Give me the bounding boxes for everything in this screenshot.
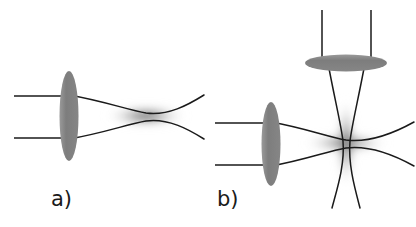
panel-a-vertical-lens [60, 71, 79, 161]
panel-label-b: b) [217, 189, 239, 210]
optical-trap-figure: a) b) [0, 0, 416, 227]
converging-ray-lower [69, 120, 204, 139]
panel-a [14, 71, 204, 161]
panel-label-a: a) [51, 189, 72, 210]
panel-b-horizontal-lens [305, 55, 387, 72]
panel-b-vertical-lens [262, 102, 281, 186]
panel-b [215, 10, 414, 208]
converging-ray-upper [69, 95, 204, 114]
panel-b-crossed-glow [302, 97, 390, 189]
